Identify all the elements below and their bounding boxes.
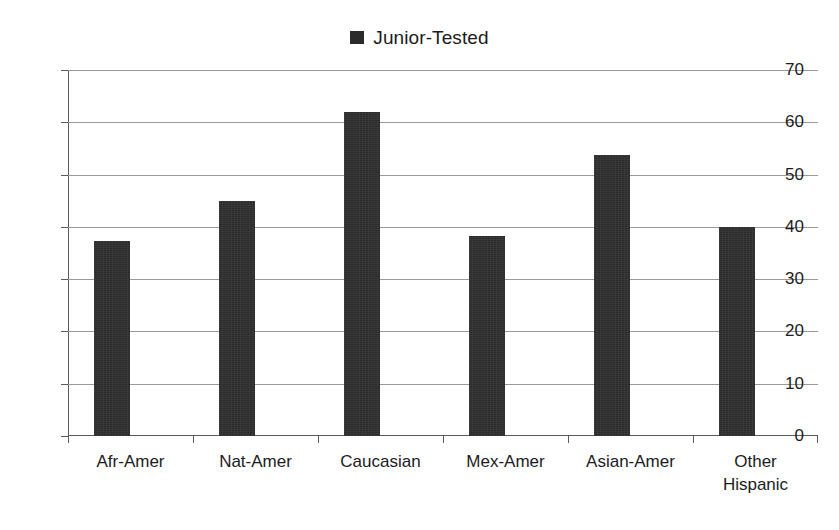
x-axis-label-afr-amer: Afr-Amer — [68, 450, 193, 473]
y-tick-30 — [61, 279, 68, 280]
bar-chart-figure: Junior-Tested 70 60 50 40 30 20 10 0 — [0, 0, 839, 530]
y-axis-label-70: 70 — [760, 61, 804, 78]
x-axis-label-other-hispanic-line-2: Hispanic — [693, 473, 818, 496]
gridline-10 — [68, 384, 818, 385]
bar-afr-amer — [94, 241, 130, 436]
y-tick-0 — [61, 436, 68, 437]
x-tick-6 — [817, 436, 818, 443]
y-axis-label-50: 50 — [760, 166, 804, 183]
x-tick-5 — [693, 436, 694, 443]
bar-asian-amer — [594, 155, 630, 436]
x-tick-1 — [193, 436, 194, 443]
bar-caucasian — [344, 112, 380, 436]
y-tick-50 — [61, 175, 68, 176]
y-axis-label-30: 30 — [760, 270, 804, 287]
bar-nat-amer — [219, 201, 255, 436]
legend-label: Junior-Tested — [373, 28, 488, 47]
x-axis-label-mex-amer-line-1: Mex-Amer — [443, 450, 568, 473]
y-tick-20 — [61, 331, 68, 332]
x-axis-label-mex-amer: Mex-Amer — [443, 450, 568, 473]
x-axis-label-nat-amer: Nat-Amer — [193, 450, 318, 473]
y-axis-line — [68, 70, 69, 437]
y-axis-label-60: 60 — [760, 113, 804, 130]
y-axis-label-20: 20 — [760, 322, 804, 339]
x-axis-label-other-hispanic-line-1: Other — [693, 450, 818, 473]
x-tick-0 — [68, 436, 69, 443]
x-axis-label-asian-amer-line-1: Asian-Amer — [568, 450, 693, 473]
gridline-40 — [68, 227, 818, 228]
x-axis-label-caucasian-line-1: Caucasian — [318, 450, 443, 473]
y-tick-70 — [61, 70, 68, 71]
x-axis-labels: Afr-Amer Nat-Amer Caucasian Mex-Amer Asi… — [68, 450, 818, 520]
x-axis-label-nat-amer-line-1: Nat-Amer — [193, 450, 318, 473]
bar-mex-amer — [469, 236, 505, 436]
x-axis-label-other-hispanic: Other Hispanic — [693, 450, 818, 496]
y-axis-label-0: 0 — [760, 427, 804, 444]
chart-legend: Junior-Tested — [0, 28, 839, 47]
gridline-30 — [68, 279, 818, 280]
y-tick-60 — [61, 122, 68, 123]
y-axis-label-40: 40 — [760, 218, 804, 235]
x-axis-label-afr-amer-line-1: Afr-Amer — [68, 450, 193, 473]
x-tick-2 — [318, 436, 319, 443]
x-tick-4 — [568, 436, 569, 443]
gridline-20 — [68, 331, 818, 332]
x-tick-3 — [443, 436, 444, 443]
y-tick-10 — [61, 384, 68, 385]
x-axis-label-caucasian: Caucasian — [318, 450, 443, 473]
bar-other-hispanic — [719, 227, 755, 436]
x-axis-label-asian-amer: Asian-Amer — [568, 450, 693, 473]
gridline-50 — [68, 175, 818, 176]
gridline-70 — [68, 70, 818, 71]
y-tick-40 — [61, 227, 68, 228]
legend-entry-junior-tested: Junior-Tested — [350, 28, 488, 47]
gridline-60 — [68, 122, 818, 123]
y-axis-label-10: 10 — [760, 375, 804, 392]
plot-area: 70 60 50 40 30 20 10 0 — [68, 70, 818, 436]
legend-swatch-icon — [350, 31, 364, 44]
